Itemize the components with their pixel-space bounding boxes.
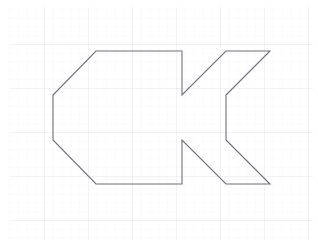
drawing-canvas — [0, 0, 318, 244]
concave-polygon-outline — [53, 51, 270, 184]
polygon-shape-layer — [0, 0, 318, 244]
